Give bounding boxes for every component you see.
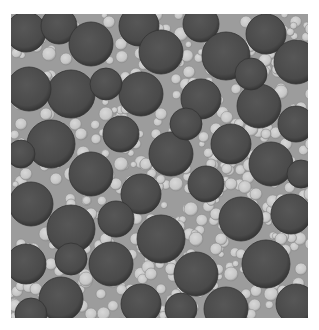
large-sphere	[89, 242, 133, 286]
small-sphere	[11, 130, 19, 139]
sphere-packing-image	[11, 14, 308, 318]
large-sphere	[249, 142, 293, 186]
large-sphere	[188, 166, 224, 202]
small-sphere	[83, 196, 91, 204]
small-sphere	[130, 161, 136, 167]
small-sphere	[161, 202, 168, 209]
small-sphere	[169, 177, 183, 191]
small-sphere	[97, 307, 110, 318]
small-sphere	[224, 267, 238, 281]
small-sphere	[189, 232, 203, 246]
small-sphere	[184, 202, 198, 216]
small-sphere	[221, 111, 233, 123]
small-sphere	[261, 129, 271, 139]
large-sphere	[170, 108, 202, 140]
large-sphere	[98, 201, 134, 237]
small-sphere	[91, 120, 100, 129]
large-sphere	[11, 67, 51, 111]
small-sphere	[232, 261, 238, 267]
large-sphere	[47, 70, 95, 118]
large-sphere	[211, 124, 251, 164]
small-sphere	[116, 51, 128, 63]
small-sphere	[210, 243, 222, 255]
small-sphere	[171, 74, 181, 84]
large-sphere	[103, 116, 139, 152]
small-sphere	[40, 108, 52, 120]
small-sphere	[50, 173, 62, 185]
large-sphere	[235, 58, 267, 90]
small-sphere	[239, 181, 252, 194]
small-sphere	[196, 214, 208, 226]
large-sphere	[237, 84, 281, 128]
small-sphere	[198, 132, 208, 142]
small-sphere	[96, 289, 106, 299]
small-sphere	[264, 287, 278, 301]
small-sphere	[85, 308, 97, 318]
large-sphere	[11, 244, 46, 284]
small-sphere	[42, 47, 56, 61]
small-sphere	[60, 53, 72, 65]
small-sphere	[222, 164, 232, 174]
large-sphere	[119, 72, 163, 116]
large-sphere	[139, 30, 183, 74]
small-sphere	[172, 91, 180, 99]
small-sphere	[97, 196, 106, 205]
small-sphere	[103, 16, 115, 28]
large-sphere	[174, 252, 218, 296]
small-sphere	[290, 22, 297, 29]
large-sphere	[271, 194, 308, 234]
large-sphere	[242, 240, 290, 288]
small-sphere	[265, 301, 273, 309]
large-sphere	[27, 120, 75, 168]
small-sphere	[79, 272, 93, 286]
large-sphere	[69, 152, 113, 196]
small-sphere	[185, 41, 191, 47]
large-sphere	[90, 68, 122, 100]
large-sphere	[11, 140, 35, 168]
small-sphere	[295, 263, 307, 275]
small-sphere	[145, 268, 157, 280]
large-sphere	[219, 197, 263, 241]
large-sphere	[55, 243, 87, 275]
small-sphere	[15, 118, 27, 130]
small-sphere	[91, 134, 101, 144]
sphere-packing-canvas	[11, 14, 308, 318]
large-sphere	[11, 182, 53, 226]
small-sphere	[108, 301, 119, 312]
small-sphere	[114, 157, 128, 171]
small-sphere	[20, 168, 32, 180]
large-sphere	[137, 215, 185, 263]
small-sphere	[183, 66, 195, 78]
large-sphere	[69, 22, 113, 66]
small-sphere	[75, 128, 87, 140]
small-sphere	[225, 178, 237, 190]
small-sphere	[250, 188, 262, 200]
